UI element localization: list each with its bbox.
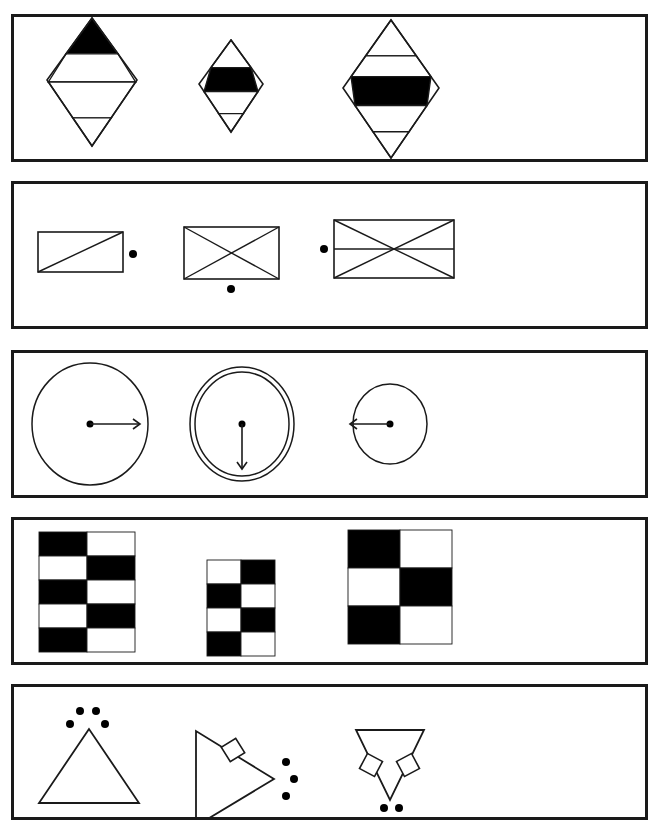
checkerboard-figure-1-cell-r1c2 [87,532,135,556]
checkerboard-figure-2-cell-r4c2 [241,632,275,656]
triangle-dot-figures-canvas [14,687,645,817]
checkerboard-figure-1-cell-r3c2 [87,580,135,604]
rectangle-figure-1-diagonal-bl-tr [38,232,123,272]
checkerboard-figure-3 [348,530,452,644]
diamond-figure-2-band-4 [219,114,244,132]
checkerboard-figure-1-cell-r3c1 [39,580,87,604]
diamond-figure-3-band-1 [366,20,417,56]
checkerboard-figure-1-cell-r5c2 [87,628,135,652]
checkerboard-figure-3-cell-r1c2 [400,530,452,568]
checkerboard-figure-2-cell-r3c2 [241,608,275,632]
checkerboard-figure-3-cell-r2c2 [400,568,452,606]
checkerboard-figures-canvas [14,520,645,662]
worksheet-sheet [0,0,659,827]
checkerboard-figure-1-cell-r2c2 [87,556,135,580]
diamond-figure-1-band-1 [66,18,118,54]
triangle-figure-1-dot-lower-left [66,720,74,728]
checkerboard-figure-3-cell-r3c1 [348,606,400,644]
checkerboard-figure-3-cell-r2c1 [348,568,400,606]
diamond-figure-1 [47,18,137,146]
checkerboard-figure-1-cell-r2c1 [39,556,87,580]
diamond-figure-1-band-2 [48,54,135,82]
checkerboard-figure-3-cell-r1c1 [348,530,400,568]
rectangle-figure-1 [38,232,137,272]
checkerboard-figure-2-cell-r2c2 [241,584,275,608]
checkerboard-figure-1-cell-r1c1 [39,532,87,556]
checkerboard-figure-2-cell-r4c1 [207,632,241,656]
checkerboard-figure-1-cell-r5c1 [39,628,87,652]
triangle-figure-1-dot-upper-left [76,707,84,715]
triangle-figure-2 [196,731,298,817]
checkerboard-figure-2-cell-r1c2 [241,560,275,584]
rectangle-diagonal-figures [11,181,648,329]
circle-arrow-figures-canvas [14,353,645,495]
triangle-figure-3-dot-below-left [380,804,388,812]
checkerboard-figure-2 [207,560,275,656]
rectangle-figure-2-dot-below [227,285,235,293]
triangle-figure-3-square-left-edge [360,754,383,777]
diamond-figure-1-band-4 [73,118,111,146]
rectangle-figure-2 [184,227,279,293]
rectangle-figure-1-dot-right [129,250,137,258]
checkerboard-figures [11,517,648,665]
diamond-figure-2-band-2 [204,68,258,92]
checkerboard-figure-1-cell-r4c1 [39,604,87,628]
diamond-banded-figures-canvas [14,17,645,159]
diamond-figure-3-band-3 [351,77,431,106]
diamond-figure-3 [343,20,439,158]
triangle-figure-1-dot-upper-right [92,707,100,715]
diamond-banded-figures [11,14,648,162]
circle-figure-2 [190,367,294,481]
checkerboard-figure-2-cell-r3c1 [207,608,241,632]
triangle-figure-1 [39,707,139,803]
triangle-figure-3 [356,730,424,812]
rectangle-figure-3 [320,220,454,278]
diamond-figure-3-band-4 [355,106,427,132]
diamond-figure-2 [199,40,263,132]
checkerboard-figure-1-cell-r4c2 [87,604,135,628]
checkerboard-figure-3-cell-r3c2 [400,606,452,644]
triangle-figure-3-dot-below-right [395,804,403,812]
triangle-figure-1-outline [39,729,139,803]
diamond-figure-2-band-1 [211,40,251,68]
triangle-dot-figures [11,684,648,820]
triangle-figure-2-dot-bottom [282,792,290,800]
circle-arrow-figures [11,350,648,498]
checkerboard-figure-1 [39,532,135,652]
rectangle-diagonal-figures-canvas [14,184,645,326]
rectangle-figure-3-dot-left [320,245,328,253]
triangle-figure-2-dot-top [282,758,290,766]
checkerboard-figure-2-cell-r1c1 [207,560,241,584]
triangle-figure-2-dot-middle [290,775,298,783]
circle-figure-3 [350,384,427,464]
circle-figure-1 [32,363,148,485]
diamond-figure-3-band-5 [373,132,409,158]
checkerboard-figure-2-cell-r2c1 [207,584,241,608]
triangle-figure-1-dot-lower-right [101,720,109,728]
